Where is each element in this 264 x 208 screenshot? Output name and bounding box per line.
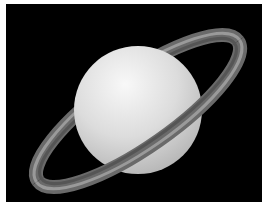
saturn-illustration xyxy=(6,4,262,202)
space-background xyxy=(6,4,262,202)
